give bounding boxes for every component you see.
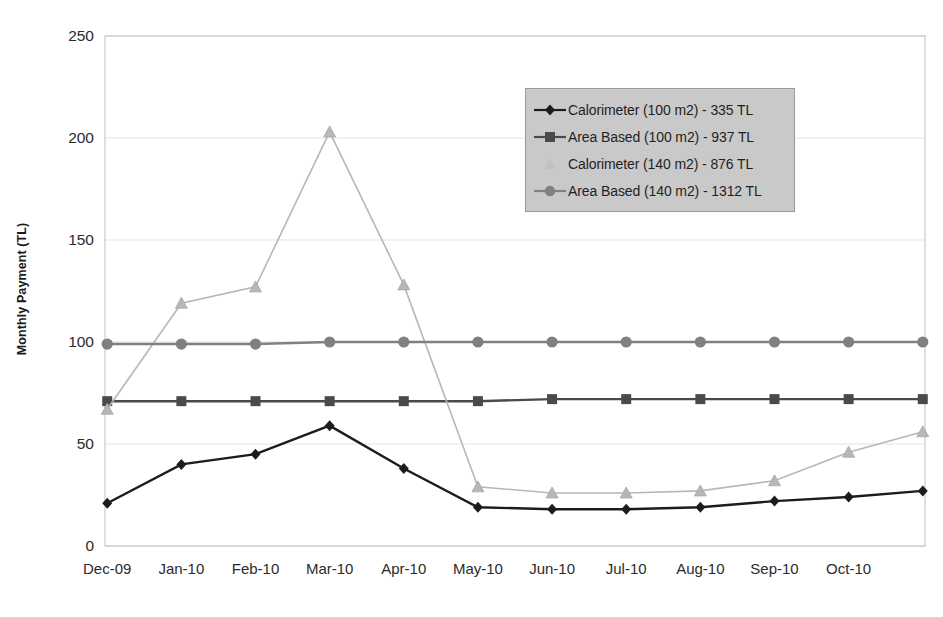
series-3 (101, 126, 929, 498)
x-axis-tick-label: Oct-10 (826, 560, 871, 577)
line-chart: Monthly Payment (TL) 050100150200250 Dec… (0, 0, 943, 617)
data-point-marker (102, 498, 112, 509)
x-axis-tick-label: Jan-10 (158, 560, 204, 577)
data-point-marker (546, 336, 557, 347)
legend-item-label: Calorimeter (140 m2) - 876 TL (568, 156, 753, 172)
x-axis-tick-label: May-10 (453, 560, 503, 577)
data-point-marker (250, 281, 262, 292)
data-point-marker (918, 394, 928, 404)
data-point-marker (769, 336, 780, 347)
data-point-marker (250, 338, 261, 349)
data-point-marker (473, 502, 483, 513)
data-point-marker (176, 459, 186, 470)
legend-item-label: Calorimeter (100 m2) - 335 TL (568, 102, 753, 118)
data-point-marker (547, 504, 557, 515)
data-point-marker (399, 396, 409, 406)
data-point-marker (102, 338, 113, 349)
legend-item[interactable]: Area Based (140 m2) - 1312 TL (532, 177, 786, 204)
x-axis-tick-label: Mar-10 (306, 560, 354, 577)
data-point-marker (918, 485, 928, 496)
data-point-marker (399, 463, 409, 474)
data-point-marker (547, 394, 557, 404)
x-axis-tick-label: Apr-10 (381, 560, 426, 577)
x-axis-tick-label: Jun-10 (529, 560, 575, 577)
data-point-marker (324, 126, 336, 137)
data-point-marker (176, 338, 187, 349)
legend-item[interactable]: Calorimeter (140 m2) - 876 TL (532, 150, 786, 177)
x-axis-tick-label: Dec-09 (83, 560, 131, 577)
data-point-marker (251, 396, 261, 406)
data-point-marker (325, 420, 335, 431)
data-point-marker (473, 396, 483, 406)
legend-item[interactable]: Calorimeter (100 m2) - 335 TL (532, 96, 786, 123)
x-axis-tick-label: Feb-10 (232, 560, 280, 577)
legend-item-label: Area Based (140 m2) - 1312 TL (568, 183, 762, 199)
data-point-marker (472, 481, 484, 492)
data-point-marker (769, 394, 779, 404)
data-point-marker (768, 475, 780, 486)
series-lines (101, 126, 929, 515)
data-point-marker (621, 336, 632, 347)
legend-item-label: Area Based (100 m2) - 937 TL (568, 129, 754, 145)
data-point-marker (844, 394, 854, 404)
data-point-marker (176, 396, 186, 406)
series-2 (102, 394, 928, 406)
data-point-marker (844, 492, 854, 503)
data-point-marker (251, 449, 261, 460)
data-point-marker (621, 504, 631, 515)
x-axis-tick-label: Jul-10 (606, 560, 647, 577)
data-point-marker (324, 336, 335, 347)
legend-marker-diamond-icon (532, 101, 568, 119)
series-4 (102, 336, 929, 349)
legend-marker-square-icon (532, 128, 568, 146)
data-point-marker (769, 496, 779, 507)
series-1 (102, 420, 928, 515)
data-point-marker (398, 336, 409, 347)
data-point-marker (695, 394, 705, 404)
data-point-marker (325, 396, 335, 406)
legend: Calorimeter (100 m2) - 335 TL Area Based… (525, 88, 795, 212)
legend-marker-triangle-icon (532, 155, 568, 173)
data-point-marker (695, 336, 706, 347)
x-axis-tick-label: Sep-10 (750, 560, 798, 577)
data-point-marker (917, 426, 929, 437)
data-point-marker (472, 336, 483, 347)
data-point-marker (621, 394, 631, 404)
x-axis-tick-label: Aug-10 (676, 560, 724, 577)
data-point-marker (398, 279, 410, 290)
data-point-marker (695, 502, 705, 513)
data-point-marker (843, 336, 854, 347)
plot-area (0, 0, 943, 617)
data-point-marker (917, 336, 928, 347)
legend-marker-circle-icon (532, 182, 568, 200)
legend-item[interactable]: Area Based (100 m2) - 937 TL (532, 123, 786, 150)
